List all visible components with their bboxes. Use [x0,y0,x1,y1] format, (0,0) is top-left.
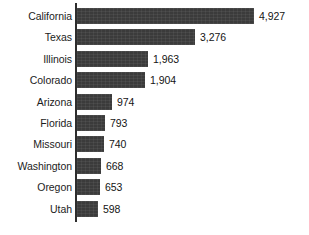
bar-row: Texas3,276 [0,29,309,46]
category-label: Utah [50,201,72,218]
bar-row: Colorado1,904 [0,72,309,89]
bar [77,115,105,131]
bar [77,201,98,217]
bar [77,72,145,88]
bar-track [77,201,98,218]
category-label: Florida [40,115,72,132]
value-label: 974 [117,94,134,111]
bar-row: Washington668 [0,158,309,175]
bar [77,94,112,110]
category-label: Washington [17,158,72,175]
category-label: Colorado [30,72,72,89]
bar [77,51,148,67]
value-label: 793 [110,115,127,132]
category-label: California [28,8,72,25]
value-label: 668 [106,158,123,175]
bar [77,29,195,45]
bar-track [77,179,100,196]
bar-row: Missouri740 [0,136,309,153]
bar-track [77,8,254,25]
bar [77,158,101,174]
category-label: Illinois [43,51,72,68]
bar-row: Florida793 [0,115,309,132]
bar-row: Arizona974 [0,94,309,111]
bar-row: Illinois1,963 [0,51,309,68]
value-label: 3,276 [200,29,226,46]
bar-track [77,115,105,132]
value-label: 1,904 [150,72,176,89]
value-label: 740 [109,136,126,153]
bar-track [77,29,195,46]
bar [77,136,104,152]
category-label: Texas [45,29,72,46]
value-label: 598 [103,201,120,218]
bar-row: California4,927 [0,8,309,25]
bar-row: Oregon653 [0,179,309,196]
bar-track [77,94,112,111]
bar-chart: California4,927Texas3,276Illinois1,963Co… [0,0,309,235]
bar-track [77,51,148,68]
bar-track [77,136,104,153]
bar [77,179,100,195]
category-label: Missouri [33,136,72,153]
bar-track [77,72,145,89]
category-label: Arizona [37,94,72,111]
bar [77,8,254,24]
bar-row: Utah598 [0,201,309,218]
value-label: 4,927 [259,8,285,25]
value-label: 1,963 [153,51,179,68]
bar-track [77,158,101,175]
value-label: 653 [105,179,122,196]
category-label: Oregon [37,179,72,196]
